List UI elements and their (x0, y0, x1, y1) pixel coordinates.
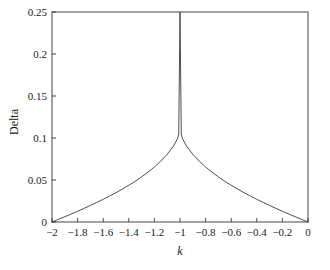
plot-canvas: −2−1.8−1.6−1.4−1.2−1−0.8−0.6−0.4−0.20 00… (0, 0, 330, 270)
y-axis-tick-labels: 00.050.10.150.20.25 (28, 6, 48, 228)
y-tick-label: 0.15 (28, 90, 48, 102)
y-tick-label: 0.25 (28, 6, 48, 18)
y-tick-label: 0.1 (33, 132, 47, 144)
y-axis-title: Delta (7, 108, 21, 135)
y-tick-label: 0 (42, 216, 48, 228)
y-tick-label: 0.2 (33, 48, 47, 60)
x-tick-label: −0.6 (221, 226, 241, 238)
x-tick-label: −1.8 (68, 226, 88, 238)
x-tick-label: −1 (174, 226, 186, 238)
x-tick-label: −1.2 (144, 226, 164, 238)
x-tick-label: 0 (305, 226, 311, 238)
x-axis-tick-labels: −2−1.8−1.6−1.4−1.2−1−0.8−0.6−0.4−0.20 (46, 226, 311, 238)
y-tick-label: 0.05 (28, 174, 48, 186)
chart-figure: −2−1.8−1.6−1.4−1.2−1−0.8−0.6−0.4−0.20 00… (0, 0, 330, 270)
x-axis-title: k (177, 244, 183, 258)
x-tick-label: −1.4 (119, 226, 139, 238)
x-tick-label: −1.6 (93, 226, 113, 238)
x-tick-label: −0.2 (272, 226, 292, 238)
x-tick-label: −0.8 (196, 226, 216, 238)
x-tick-label: −0.4 (247, 226, 267, 238)
x-tick-label: −2 (46, 226, 58, 238)
